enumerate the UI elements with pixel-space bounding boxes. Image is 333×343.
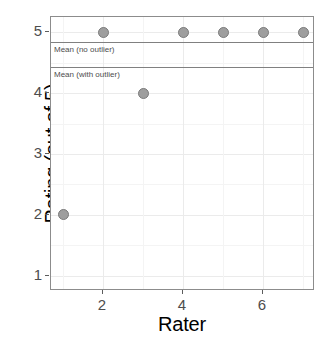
gridline-major-y [51,276,313,277]
y-tick-mark [45,153,49,154]
scatter-point [138,88,149,99]
gridline-minor-y [51,245,313,246]
y-tick-label: 5 [2,22,42,39]
gridline-major-x [263,17,264,289]
gridline-major-y [51,93,313,94]
mean-line [51,67,313,68]
gridline-major-y [51,215,313,216]
gridline-major-x [183,17,184,289]
scatter-point [298,27,309,38]
mean-line [51,42,313,43]
y-tick-label: 3 [2,144,42,161]
gridline-minor-x [63,17,64,289]
mean-line-label: Mean (with outlier) [54,70,120,79]
gridline-major-y [51,154,313,155]
scatter-point [58,209,69,220]
y-tick-label: 1 [2,266,42,283]
gridline-minor-y [51,63,313,64]
plot-panel: Mean (no outlier)Mean (with outlier) [50,16,314,290]
y-tick-label: 2 [2,205,42,222]
x-tick-label: 4 [162,296,202,313]
x-tick-label: 2 [82,296,122,313]
y-tick-mark [45,275,49,276]
gridline-minor-x [303,17,304,289]
y-tick-mark [45,31,49,32]
scatter-point [218,27,229,38]
gridline-minor-x [143,17,144,289]
x-tick-mark [262,290,263,294]
x-tick-mark [182,290,183,294]
gridline-minor-x [223,17,224,289]
y-tick-label: 4 [2,83,42,100]
x-tick-mark [102,290,103,294]
x-axis-title: Rater [50,313,314,336]
y-tick-mark [45,92,49,93]
gridline-minor-y [51,184,313,185]
x-tick-label: 6 [242,296,282,313]
gridline-major-x [103,17,104,289]
y-tick-mark [45,214,49,215]
scatter-point [258,27,269,38]
mean-line-label: Mean (no outlier) [54,45,114,54]
gridline-minor-y [51,124,313,125]
scatter-point [98,27,109,38]
chart-figure: Rating (out of 5) Rater 12345 246 Mean (… [0,0,333,343]
scatter-point [178,27,189,38]
